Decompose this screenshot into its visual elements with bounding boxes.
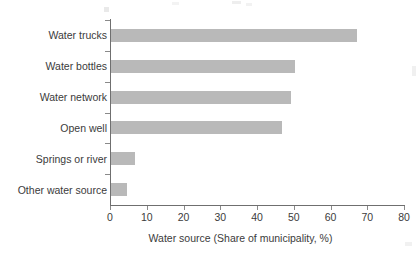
x-axis-tick-label: 0 bbox=[97, 211, 123, 224]
x-axis-tick-label: 80 bbox=[391, 211, 417, 224]
y-axis-tick bbox=[105, 51, 110, 52]
x-axis-tick bbox=[220, 206, 221, 210]
x-axis-tick-label: 10 bbox=[134, 211, 160, 224]
y-axis-tick bbox=[105, 20, 110, 21]
x-axis-title: Water source (Share of municipality, %) bbox=[0, 232, 419, 245]
bar bbox=[111, 91, 291, 104]
bar-fill bbox=[111, 29, 357, 42]
bar bbox=[111, 29, 357, 42]
x-axis-tick bbox=[257, 206, 258, 210]
x-axis-tick-label: 70 bbox=[354, 211, 380, 224]
y-axis-label: Water trucks bbox=[3, 29, 107, 41]
bar-fill bbox=[111, 60, 295, 73]
y-axis-tick bbox=[105, 143, 110, 144]
bar bbox=[111, 152, 135, 165]
y-axis-label: Other water source bbox=[3, 184, 107, 196]
x-axis-tick bbox=[184, 206, 185, 210]
y-axis-category-labels: Water trucksWater bottlesWater networkOp… bbox=[0, 20, 107, 205]
x-axis-tick-label: 20 bbox=[171, 211, 197, 224]
bar bbox=[111, 183, 127, 196]
x-axis-tick bbox=[331, 206, 332, 210]
x-axis-title-text: Water source (Share of municipality, %) bbox=[87, 232, 333, 245]
y-axis-label: Water bottles bbox=[3, 60, 107, 72]
bar-fill bbox=[111, 152, 135, 165]
bar bbox=[111, 60, 295, 73]
crop-artifact bbox=[232, 1, 241, 4]
bar-fill bbox=[111, 91, 291, 104]
x-axis-tick-label: 50 bbox=[281, 211, 307, 224]
bar-series bbox=[111, 20, 405, 205]
x-axis-tick bbox=[367, 206, 368, 210]
x-axis-tick-label: 60 bbox=[318, 211, 344, 224]
x-axis-tick bbox=[147, 206, 148, 210]
bar bbox=[111, 121, 282, 134]
bar-fill bbox=[111, 183, 127, 196]
x-axis-tick bbox=[404, 206, 405, 210]
bar-chart: Water trucksWater bottlesWater networkOp… bbox=[0, 0, 419, 258]
x-axis-tick bbox=[110, 206, 111, 210]
crop-artifact bbox=[246, 3, 252, 6]
x-axis-tick bbox=[294, 206, 295, 210]
y-axis-tick bbox=[105, 82, 110, 83]
crop-artifact bbox=[412, 66, 416, 76]
y-axis-tick bbox=[105, 174, 110, 175]
y-axis-tick bbox=[105, 113, 110, 114]
crop-artifact bbox=[104, 7, 109, 12]
y-axis-label: Water network bbox=[3, 91, 107, 103]
crop-artifact bbox=[172, 2, 179, 5]
bar-fill bbox=[111, 121, 282, 134]
x-axis-tick-label: 30 bbox=[207, 211, 233, 224]
y-axis-label: Open well bbox=[3, 122, 107, 134]
y-axis-label: Springs or river bbox=[3, 153, 107, 165]
x-axis-tick-label: 40 bbox=[244, 211, 270, 224]
